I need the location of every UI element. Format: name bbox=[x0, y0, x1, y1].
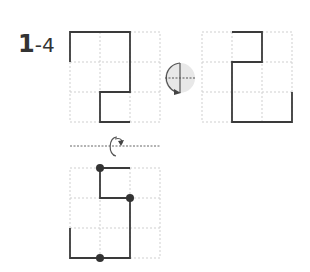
grid-original bbox=[70, 32, 160, 122]
rotate-180-icon bbox=[165, 63, 196, 95]
grid-flipped bbox=[70, 168, 160, 258]
point-marker bbox=[96, 164, 104, 172]
point-marker bbox=[96, 254, 104, 262]
flip-vertical-icon bbox=[70, 137, 160, 156]
point-marker bbox=[126, 194, 134, 202]
grid-rotated bbox=[202, 32, 292, 122]
diagram-canvas bbox=[0, 0, 310, 272]
